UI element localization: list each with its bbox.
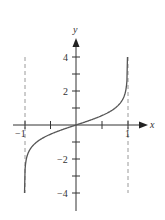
chart: x y −1 1 4 2 −2 −4 <box>0 0 165 220</box>
y-tick-label-neg4: −4 <box>57 188 68 199</box>
x-axis-label: x <box>149 119 155 130</box>
y-axis-label: y <box>72 24 78 35</box>
x-tick-label-1: 1 <box>125 128 130 139</box>
y-tick-label-4: 4 <box>63 52 68 63</box>
y-axis-arrow-icon <box>73 38 80 47</box>
y-tick-label-neg2: −2 <box>57 154 68 165</box>
x-axis-arrow-icon <box>139 122 148 129</box>
x-tick-label-neg1: −1 <box>15 128 26 139</box>
y-tick-label-2: 2 <box>63 86 68 97</box>
